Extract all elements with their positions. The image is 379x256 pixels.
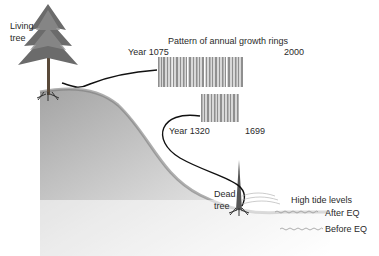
living-tree-connector bbox=[62, 70, 157, 87]
ring-pattern-title: Pattern of annual growth rings bbox=[168, 36, 288, 47]
long-pattern-end-label: 2000 bbox=[284, 47, 304, 58]
short-pattern-start-label: Year 1320 bbox=[169, 126, 210, 137]
living-tree-label-line2: tree bbox=[10, 33, 26, 44]
hillside-ground bbox=[40, 89, 340, 256]
before-eq-label: Before EQ bbox=[325, 224, 367, 235]
living-tree-icon bbox=[18, 4, 78, 101]
living-tree-label-line1: Living bbox=[10, 21, 34, 32]
ring-pattern-long bbox=[158, 57, 243, 87]
tide-heading: High tide levels bbox=[291, 195, 352, 206]
long-pattern-start-label: Year 1075 bbox=[128, 47, 169, 58]
ring-pattern-short bbox=[201, 94, 239, 122]
after-eq-label: After EQ bbox=[325, 208, 360, 219]
short-pattern-end-label: 1699 bbox=[245, 126, 265, 137]
dead-tree-label-line2: tree bbox=[214, 201, 230, 212]
dead-tree-label-line1: Dead bbox=[214, 189, 236, 200]
